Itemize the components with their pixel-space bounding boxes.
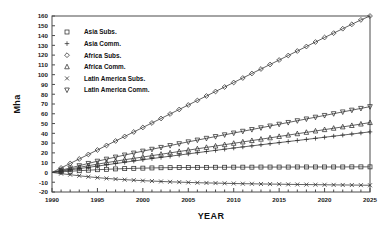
legend-label-4: Latin America Subs. — [84, 75, 145, 82]
series-line — [52, 107, 370, 173]
x-tick-label-5: 2015 — [272, 196, 286, 203]
legend-label-1: Asia Comm. — [84, 40, 121, 47]
y-tick-label-11: 90 — [41, 81, 48, 88]
x-tick-label-3: 2005 — [181, 196, 195, 203]
x-axis-title: YEAR — [198, 211, 225, 221]
legend-label-5: Latin America Comm. — [84, 86, 150, 93]
x-tick-label-1: 1995 — [91, 196, 105, 203]
series-line — [52, 172, 370, 185]
y-tick-label-3: 10 — [41, 159, 48, 166]
x-tick-label-4: 2010 — [227, 196, 241, 203]
line-chart: -20-100102030405060708090100110120130140… — [0, 0, 390, 235]
marker-triangle-down — [65, 88, 70, 93]
y-tick-label-4: 20 — [41, 149, 48, 156]
x-tick-label-6: 2020 — [318, 196, 332, 203]
x-tick-label-2: 2000 — [136, 196, 150, 203]
y-tick-label-17: 150 — [38, 22, 49, 29]
y-tick-label-15: 130 — [38, 42, 49, 49]
x-tick-label-7: 2025 — [363, 196, 377, 203]
y-tick-label-6: 40 — [41, 130, 48, 137]
marker-diamond — [65, 53, 70, 58]
marker-square — [65, 30, 69, 34]
y-tick-label-5: 30 — [41, 139, 48, 146]
y-tick-label-18: 160 — [38, 12, 49, 19]
legend-label-2: Africa Subs. — [84, 52, 122, 59]
y-tick-label-2: 0 — [45, 169, 49, 176]
y-tick-label-1: -10 — [39, 179, 49, 186]
y-tick-label-13: 110 — [38, 61, 49, 68]
y-tick-label-16: 140 — [38, 32, 49, 39]
legend-label-0: Asia Subs. — [84, 28, 117, 35]
legend: Asia Subs.Asia Comm.Africa Subs.Africa C… — [65, 28, 150, 93]
legend-label-3: Africa Comm. — [84, 63, 126, 70]
y-axis-title: Mha — [12, 94, 22, 114]
y-tick-label-10: 80 — [41, 91, 48, 98]
chart-container: -20-100102030405060708090100110120130140… — [0, 0, 390, 235]
y-tick-label-12: 100 — [38, 71, 49, 78]
y-tick-label-7: 50 — [41, 120, 48, 127]
marker-triangle — [65, 64, 70, 69]
y-tick-label-0: -20 — [39, 188, 49, 195]
y-tick-label-9: 70 — [41, 100, 48, 107]
x-tick-label-0: 1990 — [45, 196, 59, 203]
series-latin-america-subs — [52, 172, 372, 188]
y-tick-label-8: 60 — [41, 110, 48, 117]
y-tick-label-14: 120 — [38, 51, 49, 58]
